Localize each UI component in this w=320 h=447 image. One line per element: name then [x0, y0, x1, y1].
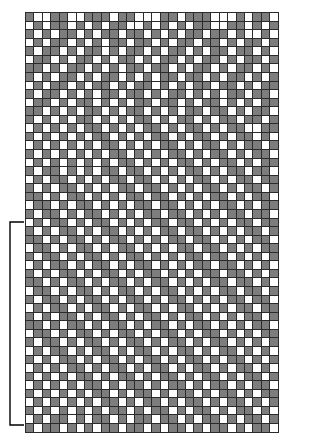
pattern-cell-empty — [186, 47, 194, 56]
pattern-cell-empty — [110, 98, 118, 107]
pattern-cell-filled — [211, 355, 219, 364]
pattern-cell-empty — [34, 372, 42, 381]
pattern-cell-filled — [236, 150, 244, 159]
pattern-cell-empty — [68, 329, 76, 338]
pattern-cell-empty — [143, 321, 151, 330]
pattern-cell-filled — [76, 201, 84, 210]
pattern-cell-empty — [101, 321, 109, 330]
pattern-cell-filled — [127, 30, 135, 39]
pattern-cell-empty — [169, 406, 177, 415]
pattern-cell-empty — [118, 295, 126, 304]
pattern-cell-filled — [219, 424, 227, 433]
pattern-cell-empty — [228, 218, 236, 227]
pattern-cell-empty — [93, 98, 101, 107]
pattern-cell-empty — [186, 21, 194, 30]
pattern-cell-empty — [261, 269, 269, 278]
pattern-cell-filled — [160, 329, 168, 338]
pattern-cell-empty — [244, 192, 252, 201]
pattern-cell-filled — [68, 90, 76, 99]
pattern-cell-empty — [261, 141, 269, 150]
pattern-cell-empty — [68, 38, 76, 47]
pattern-cell-filled — [194, 30, 202, 39]
pattern-cell-empty — [236, 158, 244, 167]
pattern-cell-filled — [177, 338, 185, 347]
pattern-cell-empty — [202, 398, 210, 407]
pattern-cell-filled — [169, 372, 177, 381]
pattern-cell-filled — [127, 90, 135, 99]
pattern-cell-empty — [84, 389, 92, 398]
pattern-cell-empty — [152, 389, 160, 398]
pattern-cell-empty — [236, 184, 244, 193]
pattern-cell-empty — [261, 38, 269, 47]
pattern-cell-filled — [253, 167, 261, 176]
pattern-cell-empty — [143, 192, 151, 201]
pattern-cell-empty — [118, 192, 126, 201]
pattern-cell-empty — [169, 81, 177, 90]
pattern-cell-empty — [244, 107, 252, 116]
pattern-cell-empty — [202, 47, 210, 56]
pattern-cell-filled — [202, 261, 210, 270]
pattern-cell-filled — [219, 278, 227, 287]
pattern-row — [26, 55, 279, 64]
pattern-cell-empty — [59, 338, 67, 347]
pattern-cell-empty — [127, 235, 135, 244]
pattern-cell-empty — [135, 158, 143, 167]
pattern-cell-empty — [152, 21, 160, 30]
pattern-row — [26, 98, 279, 107]
pattern-cell-filled — [118, 304, 126, 313]
pattern-cell-empty — [110, 13, 118, 22]
pattern-cell-filled — [169, 167, 177, 176]
pattern-cell-empty — [59, 381, 67, 390]
pattern-cell-filled — [110, 364, 118, 373]
pattern-cell-filled — [236, 21, 244, 30]
pattern-cell-filled — [59, 261, 67, 270]
pattern-cell-filled — [118, 415, 126, 424]
pattern-cell-filled — [118, 13, 126, 22]
pattern-cell-filled — [59, 13, 67, 22]
pattern-cell-empty — [160, 355, 168, 364]
pattern-cell-filled — [186, 167, 194, 176]
pattern-cell-filled — [84, 355, 92, 364]
pattern-cell-filled — [160, 72, 168, 81]
pattern-cell-empty — [34, 252, 42, 261]
pattern-cell-empty — [84, 150, 92, 159]
pattern-cell-empty — [244, 269, 252, 278]
pattern-cell-empty — [84, 38, 92, 47]
pattern-cell-filled — [51, 338, 59, 347]
pattern-cell-filled — [34, 81, 42, 90]
pattern-cell-filled — [244, 64, 252, 73]
pattern-cell-empty — [177, 55, 185, 64]
pattern-cell-filled — [152, 235, 160, 244]
pattern-cell-empty — [84, 261, 92, 270]
pattern-cell-empty — [219, 55, 227, 64]
pattern-cell-filled — [211, 30, 219, 39]
pattern-cell-filled — [93, 338, 101, 347]
pattern-cell-filled — [236, 278, 244, 287]
pattern-cell-filled — [177, 81, 185, 90]
pattern-cell-filled — [270, 124, 279, 133]
pattern-cell-empty — [68, 406, 76, 415]
pattern-cell-empty — [177, 98, 185, 107]
pattern-cell-empty — [177, 252, 185, 261]
pattern-cell-empty — [169, 278, 177, 287]
pattern-cell-empty — [135, 372, 143, 381]
pattern-cell-empty — [143, 295, 151, 304]
pattern-cell-filled — [101, 244, 109, 253]
pattern-cell-filled — [236, 295, 244, 304]
pattern-cell-filled — [236, 424, 244, 433]
pattern-cell-filled — [135, 261, 143, 270]
pattern-cell-filled — [244, 415, 252, 424]
pattern-cell-filled — [194, 398, 202, 407]
pattern-cell-filled — [68, 192, 76, 201]
pattern-cell-filled — [160, 406, 168, 415]
pattern-cell-filled — [68, 398, 76, 407]
pattern-cell-empty — [186, 295, 194, 304]
pattern-cell-filled — [110, 424, 118, 433]
pattern-cell-filled — [219, 192, 227, 201]
pattern-cell-filled — [270, 312, 279, 321]
pattern-cell-filled — [261, 107, 269, 116]
pattern-cell-filled — [261, 30, 269, 39]
pattern-row — [26, 372, 279, 381]
pattern-cell-empty — [76, 398, 84, 407]
pattern-cell-empty — [93, 355, 101, 364]
